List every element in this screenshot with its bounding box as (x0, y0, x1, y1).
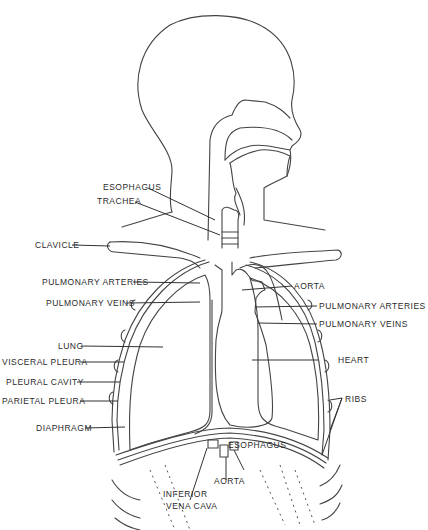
label-heart: HEART (338, 355, 369, 365)
label-inferior-vena-cava-2: VENA CAVA (166, 501, 217, 511)
label-visceral-pleura: VISCERAL PLEURA (2, 357, 88, 367)
label-esophagus-bottom: ESOPHAGUS (228, 440, 286, 450)
label-parietal-pleura: PARIETAL PLEURA (2, 396, 85, 406)
leader-lines (72, 188, 342, 500)
trachea (222, 207, 239, 248)
label-clavicle: CLAVICLE (35, 240, 79, 250)
label-trachea: TRACHEA (97, 196, 141, 206)
label-lung: LUNG (58, 341, 84, 351)
clavicles (108, 242, 342, 268)
label-ribs: RIBS (345, 394, 367, 404)
label-aorta-top: AORTA (294, 281, 325, 291)
label-pulmonary-veins-left: PULMONARY VEINS (46, 298, 135, 308)
left-lung (129, 275, 212, 450)
heart (215, 262, 273, 427)
label-pulmonary-arteries-right: PULMONARY ARTERIES (319, 301, 426, 311)
lower-ribs (112, 465, 342, 530)
respiratory-system-diagram: ESOPHAGUS TRACHEA CLAVICLE PULMONARY ART… (0, 0, 428, 530)
diaphragm (116, 428, 328, 468)
label-esophagus-top: ESOPHAGUS (103, 182, 161, 192)
label-pleural-cavity: PLEURAL CAVITY (6, 377, 84, 387)
label-pulmonary-arteries-left: PULMONARY ARTERIES (42, 277, 149, 287)
right-lung (250, 278, 319, 440)
label-inferior-vena-cava-1: INFERIOR (163, 489, 208, 499)
label-diaphragm: DIAPHRAGM (36, 423, 92, 433)
head-outline (122, 16, 325, 240)
label-aorta-bottom: AORTA (214, 476, 245, 486)
label-pulmonary-veins-right: PULMONARY VEINS (319, 319, 408, 329)
